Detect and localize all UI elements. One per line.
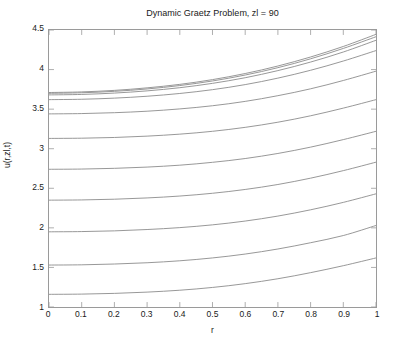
y-tick-label: 3.5: [32, 104, 44, 113]
y-tick-label: 3: [39, 144, 44, 153]
x-tick-label: 0.3: [141, 310, 153, 319]
x-tick-label: 1: [375, 310, 380, 319]
y-tick-label: 1.5: [32, 263, 44, 272]
x-tick-label: 0.9: [338, 310, 350, 319]
y-tick-label: 2: [39, 223, 44, 232]
page-title: Dynamic Graetz Problem, zl = 90: [48, 8, 377, 18]
y-tick-label: 4.5: [32, 24, 44, 33]
y-axis-tick-labels: 11.522.533.544.5: [0, 29, 44, 308]
x-tick-label: 0: [46, 310, 51, 319]
x-tick-label: 0.2: [108, 310, 120, 319]
x-tick-label: 0.7: [272, 310, 284, 319]
x-tick-label: 0.8: [305, 310, 317, 319]
series-line: [49, 162, 376, 200]
x-tick-label: 0.6: [239, 310, 251, 319]
x-tick-label: 0.4: [174, 310, 186, 319]
y-tick-label: 2.5: [32, 183, 44, 192]
x-axis-tick-labels: 00.10.20.30.40.50.60.70.80.91: [48, 310, 377, 326]
plot-area: [48, 29, 377, 308]
x-axis-label: r: [48, 325, 377, 335]
series-line: [49, 40, 376, 95]
y-tick-label: 1: [39, 303, 44, 312]
series-line: [49, 258, 376, 294]
figure-canvas: Dynamic Graetz Problem, zl = 90 u(r,zl,t…: [0, 0, 406, 350]
data-curves: [49, 30, 376, 307]
y-tick-label: 4: [39, 64, 44, 73]
x-tick-label: 0.1: [75, 310, 87, 319]
x-tick-label: 0.5: [207, 310, 219, 319]
series-line: [49, 131, 376, 169]
